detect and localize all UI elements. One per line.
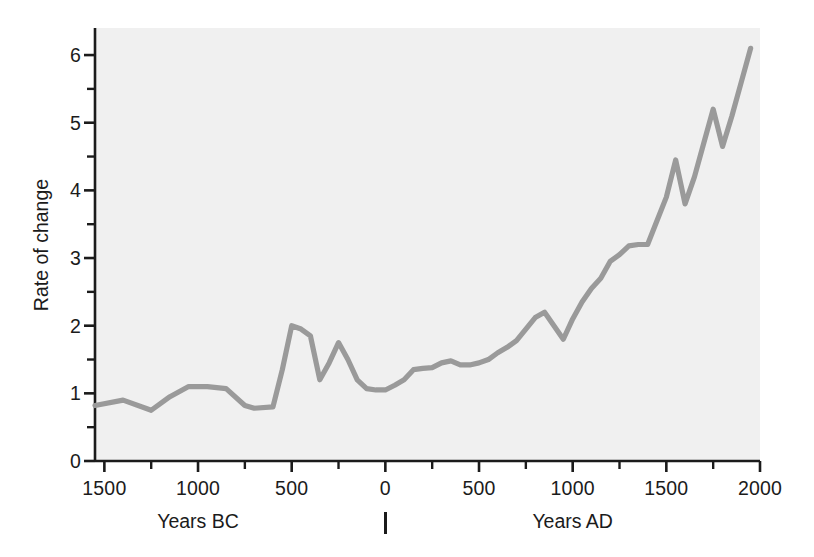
x-tick-label: 1000 (551, 477, 595, 500)
x-axis-ticks (104, 461, 760, 472)
y-axis-ticks (84, 55, 95, 461)
era-divider-mark (384, 512, 387, 534)
era-label: Years AD (532, 510, 613, 533)
era-label: Years BC (157, 510, 239, 533)
y-tick-label: 4 (55, 179, 81, 202)
x-tick-label: 1500 (82, 477, 126, 500)
x-tick-label: 1000 (176, 477, 220, 500)
y-tick-label: 0 (55, 450, 81, 473)
chart-figure: 0123456 150010005000500100015002000 Rate… (0, 0, 814, 557)
y-axis-title: Rate of change (30, 178, 53, 310)
x-tick-label: 500 (275, 477, 308, 500)
y-tick-label: 1 (55, 382, 81, 405)
y-tick-label: 5 (55, 111, 81, 134)
plot-area-background (95, 28, 760, 461)
x-tick-label: 2000 (738, 477, 782, 500)
x-tick-label: 1500 (644, 477, 688, 500)
y-tick-label: 6 (55, 44, 81, 67)
y-tick-label: 3 (55, 247, 81, 270)
y-tick-label: 2 (55, 314, 81, 337)
x-tick-label: 500 (462, 477, 495, 500)
x-tick-label: 0 (380, 477, 391, 500)
